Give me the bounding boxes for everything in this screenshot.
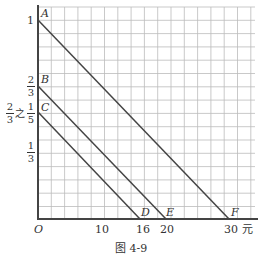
figure-caption: 图 4-9 [115,243,147,254]
y-tick-c-mid: 之 [15,108,25,119]
line-BE [38,86,166,219]
y-tick-c-prefix: 23 [6,102,14,125]
grid-lines [38,7,255,219]
x-tick-20: 20 [160,224,174,235]
y-tick-c-fraction: 15 [27,102,35,125]
line-CD [38,112,140,219]
x-tick-10: 10 [95,224,109,235]
data-lines [38,20,229,219]
origin-label: O [34,224,43,235]
y-tick-two-thirds: 23 [27,75,35,98]
point-label-c: C [41,102,49,113]
y-tick-one-third: 13 [27,141,35,164]
y-tick-1: 1 [27,15,34,26]
line-AF [38,20,229,219]
chart-plot [0,0,263,257]
x-axis-unit: 元 [242,224,253,235]
point-label-f: F [231,207,239,218]
point-label-a: A [41,8,49,19]
point-label-d: D [141,207,150,218]
x-tick-16: 16 [136,224,150,235]
point-label-b: B [41,74,49,85]
point-label-e: E [166,207,174,218]
x-tick-30: 30 [224,224,238,235]
